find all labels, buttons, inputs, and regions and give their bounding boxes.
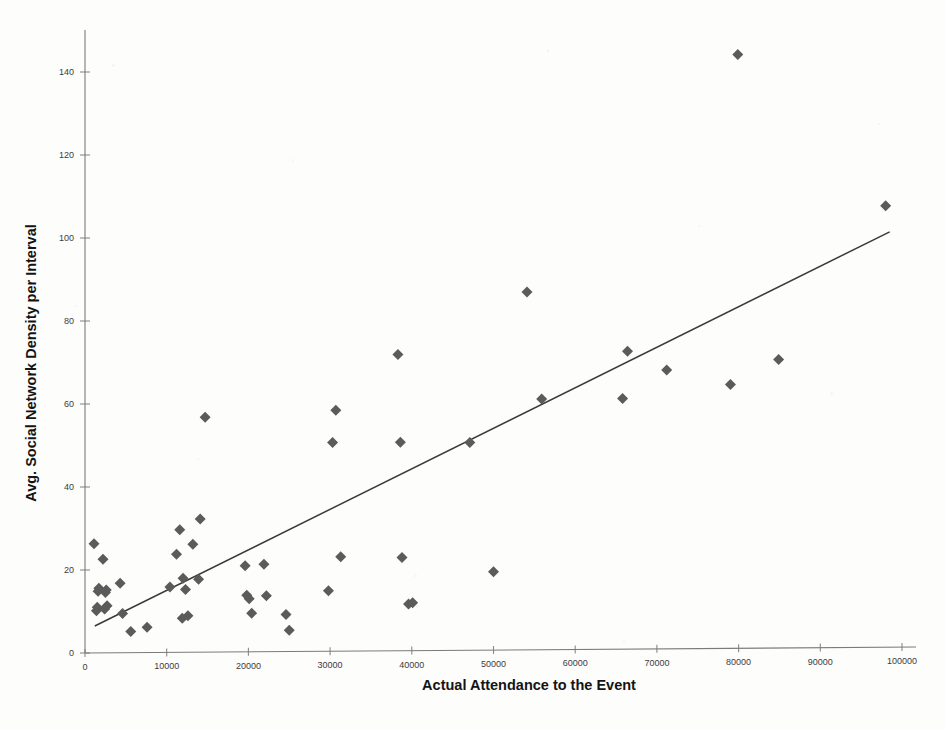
data-point [246,608,257,619]
data-point [327,437,338,448]
x-tick-label: 50000 [481,659,506,669]
data-point [261,590,272,601]
x-tick-label: 10000 [154,661,179,671]
data-point [88,538,99,549]
data-point-group [88,49,891,637]
plot-canvas: 020406080100120140 010000200003000040000… [0,0,945,729]
y-tick-label: 20 [64,565,74,575]
data-point [392,349,403,360]
data-point [395,437,406,448]
y-tick-label: 100 [59,233,74,243]
x-axis-title: Actual Attendance to the Event [422,677,636,693]
data-point [284,625,295,636]
data-point [488,566,499,577]
x-tick-label: 20000 [236,661,261,671]
data-point [725,379,736,390]
data-point [142,622,153,633]
x-tick-label: 70000 [644,658,669,668]
y-tick-label: 60 [64,399,74,409]
x-tick-label: 30000 [318,660,343,670]
x-tick-label: 80000 [726,657,751,667]
data-point [258,559,269,570]
data-point [115,578,126,589]
data-point [187,539,198,550]
data-point [280,609,291,620]
data-point [193,574,204,585]
data-point [178,573,189,584]
data-point [200,412,211,423]
trend-line [95,232,890,626]
y-tick-label: 120 [59,150,74,160]
x-tick-label: 90000 [808,657,833,667]
data-point [180,584,191,595]
data-point [880,200,891,211]
y-tick-label: 140 [59,67,74,77]
scatter-chart-figure: 020406080100120140 010000200003000040000… [0,0,945,729]
data-point [622,346,633,357]
data-point [195,513,206,524]
data-point [125,626,136,637]
data-point [396,552,407,563]
data-point [330,405,341,416]
data-point [773,354,784,365]
data-point [171,549,182,560]
data-point [521,286,532,297]
data-point [732,49,743,60]
data-point [617,393,628,404]
x-tick-label: 100000 [887,656,917,666]
y-tick-label: 0 [69,648,74,658]
data-point [174,524,185,535]
data-point [323,585,334,596]
data-point [661,364,672,375]
data-point [97,554,108,565]
trend-line-group [95,232,890,626]
data-point [240,560,251,571]
y-tick-label: 40 [64,482,74,492]
x-tick-label: 0 [82,662,87,672]
y-axis-title: Avg. Social Network Density per Interval [23,224,39,501]
x-tick-label: 60000 [563,658,588,668]
y-tick-label: 80 [64,316,74,326]
x-tick-label: 40000 [399,660,424,670]
data-point [335,551,346,562]
axis-lines [85,30,916,653]
